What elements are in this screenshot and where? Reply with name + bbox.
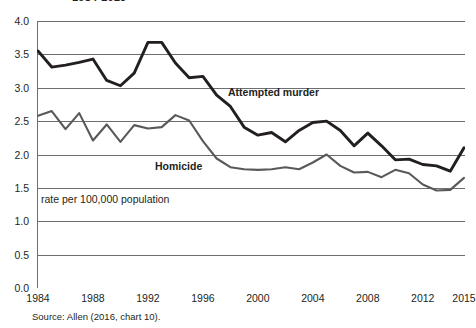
x-tick-label: 2015 <box>452 292 475 304</box>
x-tick-label: 2008 <box>356 292 379 304</box>
gridlines <box>37 21 465 288</box>
y-tick-label: 1.0 <box>14 216 29 227</box>
x-tick-label: 1992 <box>136 292 159 304</box>
y-tick-label: 1.5 <box>14 183 29 194</box>
axis-note: rate per 100,000 population <box>41 193 169 205</box>
x-tick-label: 1996 <box>191 292 214 304</box>
series-label-homicide: Homicide <box>155 160 202 172</box>
y-tick-label: 3.5 <box>14 49 29 60</box>
series-label-attempted-murder: Attempted murder <box>228 86 319 98</box>
x-tick-label: 2012 <box>411 292 434 304</box>
series-lines <box>38 42 464 190</box>
x-axis: 198419881992199620002004200820122015 <box>37 292 465 308</box>
y-tick-label: 0.5 <box>14 249 29 260</box>
y-axis: 0.00.51.01.52.02.53.03.54.0 <box>0 21 33 288</box>
y-tick-label: 2.5 <box>14 116 29 127</box>
x-tick-label: 1984 <box>26 292 49 304</box>
source-note: Source: Allen (2016, chart 10). <box>32 311 160 322</box>
y-tick-label: 4.0 <box>14 16 29 27</box>
series-line-homicide <box>38 111 464 190</box>
plot-area <box>37 21 465 288</box>
x-tick-label: 2000 <box>246 292 269 304</box>
y-tick-label: 3.0 <box>14 83 29 94</box>
chart-title: 1984-2015 <box>72 0 126 2</box>
x-tick-label: 2004 <box>301 292 324 304</box>
series-line-attempted-murder <box>38 42 464 171</box>
plot-svg <box>37 21 465 288</box>
y-tick-label: 2.0 <box>14 149 29 160</box>
x-tick-label: 1988 <box>81 292 104 304</box>
